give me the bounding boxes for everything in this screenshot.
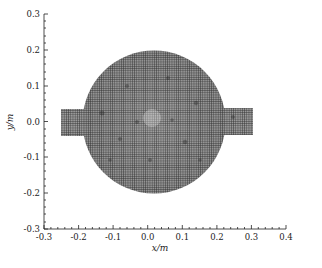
y-tick-label: 0.2 (26, 45, 40, 55)
y-tick-label: -0.2 (24, 188, 40, 198)
x-tick-label: 0.4 (279, 232, 293, 242)
x-tick-label: -0.1 (105, 232, 121, 242)
x-tick-label: 0.0 (141, 232, 155, 242)
mesh-plot: 0.3 0.2 0.1 0.0 -0.1 -0.2 -0.3 -0.3 -0.2… (0, 0, 322, 268)
x-tick-label: 0.2 (210, 232, 224, 242)
x-axis-label: x/m (152, 243, 169, 253)
x-tick-labels: -0.3 -0.2 -0.1 0.0 0.1 0.2 0.3 0.4 (36, 232, 293, 242)
y-tick-label: 0.1 (26, 81, 40, 91)
x-tick-label: 0.1 (176, 232, 190, 242)
y-tick-label: -0.1 (24, 152, 40, 162)
y-tick-labels: 0.3 0.2 0.1 0.0 -0.1 -0.2 -0.3 (24, 9, 40, 234)
y-tick-label: 0.0 (26, 117, 40, 127)
y-axis-label: y/m (5, 114, 15, 132)
y-tick-label: 0.3 (26, 9, 40, 19)
x-tick-label: -0.3 (36, 232, 52, 242)
x-tick-label: -0.2 (70, 232, 86, 242)
mesh-geometry (61, 51, 253, 194)
x-tick-label: 0.3 (245, 232, 259, 242)
